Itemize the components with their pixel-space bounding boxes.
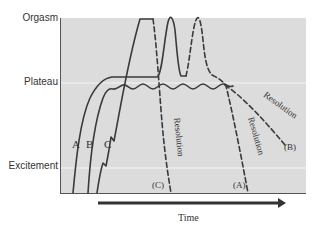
x-axis-label: Time xyxy=(178,212,199,223)
curve-label-b: B xyxy=(86,138,93,150)
time-arrow-head-icon xyxy=(278,198,286,208)
end-label-c: (C) xyxy=(152,180,164,190)
diagram-canvas: A B C (C) (A) (B) Resolution Resolution … xyxy=(0,0,328,228)
end-label-b: (B) xyxy=(284,142,296,152)
end-label-a: (A) xyxy=(233,180,246,190)
curve-label-a: A xyxy=(72,138,80,150)
response-cycle-diagram: Orgasm Plateau Excitement A B C (C) (A) xyxy=(0,0,328,228)
curve-label-c: C xyxy=(104,138,111,150)
plot-area xyxy=(60,18,306,193)
